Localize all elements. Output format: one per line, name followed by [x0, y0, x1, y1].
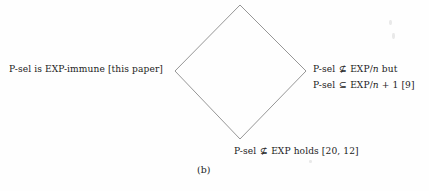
not-subset-icon: ⊈ — [338, 63, 347, 74]
scan-artifact — [392, 33, 395, 39]
right-line1-base: EXP/ — [350, 64, 373, 74]
bottom-prefix: P-sel — [234, 146, 256, 156]
scan-artifact — [309, 160, 312, 163]
diamond-diagram — [0, 0, 429, 191]
bottom-suffix: EXP holds [20, 12] — [271, 146, 359, 156]
diamond-outline — [175, 5, 306, 139]
right-line2-base: EXP/ — [350, 80, 373, 90]
label-right-exp-n: P-sel ⊈ EXP/n but P-sel ⊆ EXP/n + 1 [9] — [313, 61, 415, 93]
scan-artifact — [389, 20, 392, 25]
right-line1-variable: n — [373, 64, 379, 74]
right-line2-variable: n — [373, 80, 379, 90]
subset-or-equal-icon: ⊆ — [338, 79, 347, 90]
figure-panel-b: P-sel is EXP-immune [this paper] P-sel ⊈… — [0, 0, 429, 191]
right-line1-suffix: but — [382, 64, 398, 74]
right-line2-prefix: P-sel — [313, 80, 335, 90]
right-line2-suffix: + 1 [9] — [382, 80, 415, 90]
label-left-exp-immune: P-sel is EXP-immune [this paper] — [9, 61, 163, 77]
figure-caption: (b) — [197, 164, 210, 175]
not-subset-icon-bottom: ⊈ — [259, 145, 268, 156]
label-bottom-exp-holds: P-sel ⊈ EXP holds [20, 12] — [234, 143, 359, 159]
label-right-line-1: P-sel ⊈ EXP/n but — [313, 61, 415, 77]
right-line1-prefix: P-sel — [313, 64, 335, 74]
label-right-line-2: P-sel ⊆ EXP/n + 1 [9] — [313, 77, 415, 93]
